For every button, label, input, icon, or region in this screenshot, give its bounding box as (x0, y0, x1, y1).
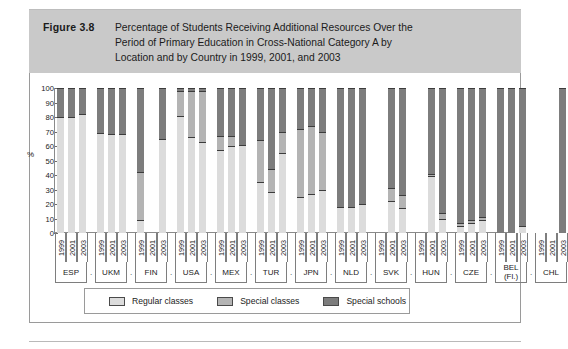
bar-segment (297, 197, 304, 233)
y-tick-label: 20 (36, 200, 54, 209)
year-tick-box: 1999 (55, 233, 66, 262)
legend-swatch (323, 297, 339, 306)
bar-group (96, 88, 127, 233)
year-tick-box: 2003 (477, 233, 488, 262)
year-label: 2003 (278, 240, 287, 256)
bar-group (296, 88, 327, 233)
bar-segment (217, 136, 224, 151)
bar-segment (199, 88, 206, 91)
country-label-box: CZE (455, 262, 487, 283)
year-label: 1999 (136, 240, 145, 256)
year-label: 2003 (78, 240, 87, 256)
bar-segment (279, 132, 286, 154)
bar-segment (97, 88, 104, 133)
country-label-box: USA (175, 262, 207, 283)
year-tick-box: 2003 (517, 233, 528, 262)
bar-group (136, 88, 167, 233)
year-label: 2003 (558, 240, 567, 256)
bar-group (376, 88, 407, 233)
bar-segment (68, 117, 75, 233)
year-tick-box: 1999 (415, 233, 426, 262)
figure-title-line-1: Percentage of Students Receiving Additio… (115, 20, 505, 35)
year-label: 1999 (256, 240, 265, 256)
bar-segment (97, 133, 104, 233)
bar-segment (228, 136, 235, 146)
year-tick-box: 2003 (397, 233, 408, 262)
bar-segment (468, 88, 475, 220)
legend-label: Regular classes (132, 296, 193, 306)
country-label: MEX (222, 268, 239, 277)
bar-group (336, 88, 367, 233)
country-separator-dot: . (407, 262, 415, 283)
year-tick-box: 2001 (386, 233, 397, 262)
year-label: 2001 (67, 240, 76, 256)
legend-label: Special schools (346, 296, 406, 306)
bar-segment (319, 190, 326, 234)
y-tick-label: 30 (36, 186, 54, 195)
bar-segment (388, 88, 395, 188)
bar-segment (399, 195, 406, 208)
bar-segment (159, 139, 166, 233)
figure-header-band: Figure 3.8 Percentage of Students Receiv… (29, 9, 521, 74)
bar-segment (468, 223, 475, 233)
year-label: 2003 (158, 240, 167, 256)
country-label-box: TUR (255, 262, 287, 283)
year-label: 2003 (398, 240, 407, 256)
bar-segment (159, 88, 166, 139)
bar-group (256, 88, 287, 233)
bar-segment (337, 88, 344, 207)
bar-segment (468, 220, 475, 223)
country-label-box: JPN (295, 262, 327, 283)
country-label-box: CHL (535, 262, 567, 283)
bar-segment (137, 88, 144, 172)
year-label: 2003 (358, 240, 367, 256)
year-label: 1999 (96, 240, 105, 256)
year-tick-box: 1999 (495, 233, 506, 262)
bar-segment (239, 88, 246, 145)
year-tick-box: 2003 (117, 233, 128, 262)
bar-segment (279, 153, 286, 233)
year-tick-box: 1999 (215, 233, 226, 262)
bar-segment (199, 142, 206, 233)
year-label: 2003 (438, 240, 447, 256)
bar-segment (257, 140, 264, 182)
year-label: 1999 (376, 240, 385, 256)
year-tick-box: 2001 (146, 233, 157, 262)
figure-title: Percentage of Students Receiving Additio… (115, 20, 505, 66)
country-label: USA (183, 268, 199, 277)
year-label: 1999 (296, 240, 305, 256)
year-tick-box: 2003 (317, 233, 328, 262)
year-tick-box: 2003 (77, 233, 88, 262)
year-label: 2001 (107, 240, 116, 256)
bar-segment (479, 220, 486, 233)
bar-segment (108, 88, 115, 134)
year-label: 2001 (347, 240, 356, 256)
year-label: 2003 (238, 240, 247, 256)
bar-segment (457, 223, 464, 226)
year-tick-box: 2003 (357, 233, 368, 262)
x-axis-labels: 199920012003ESP.199920012003UKM.19992001… (55, 233, 514, 283)
figure-number: Figure 3.8 (43, 21, 95, 33)
bar-segment (319, 88, 326, 132)
country-label: FIN (145, 268, 158, 277)
country-separator-dot: . (247, 262, 255, 283)
bar-segment (79, 114, 86, 233)
bar-segment (188, 137, 195, 233)
y-tick-label: 80 (36, 113, 54, 122)
bar-segment (319, 132, 326, 190)
country-label-box: ESP (55, 262, 87, 283)
year-tick-box: 2003 (277, 233, 288, 262)
bar-segment (137, 172, 144, 220)
bar-group (456, 88, 487, 233)
year-tick-box: 1999 (175, 233, 186, 262)
country-label-box: MEX (215, 262, 247, 283)
year-tick-box: 2001 (546, 233, 557, 262)
bar-segment (457, 88, 464, 223)
bar-segment (399, 88, 406, 195)
bar-segment (228, 88, 235, 136)
year-label: 2003 (478, 240, 487, 256)
bar-segment (519, 88, 526, 226)
country-label-box: BEL(Fl.) (495, 262, 527, 283)
year-label: 2003 (118, 240, 127, 256)
bar-segment (479, 217, 486, 220)
